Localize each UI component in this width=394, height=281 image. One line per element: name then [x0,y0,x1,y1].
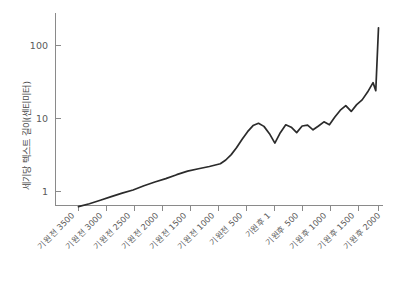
line-chart-svg: 100 10 1 세기당 텍스트 길이(센티미터) 기원전 3500 기원전 3… [0,0,394,281]
x-axis-tick-labels: 기원전 3500 기원전 3000 기원전 2500 기원전 2000 기원전 … [36,210,383,251]
data-series-line [79,28,379,207]
y-axis-ticks [56,46,62,192]
y-tick-label-10: 10 [36,113,48,124]
x-axis-ticks [79,206,379,212]
y-tick-label-100: 100 [30,40,48,51]
chart-container: 100 10 1 세기당 텍스트 길이(센티미터) 기원전 3500 기원전 3… [0,0,394,281]
y-tick-label-1: 1 [42,186,48,197]
y-axis-title: 세기당 텍스트 길이(센티미터) [21,81,32,190]
